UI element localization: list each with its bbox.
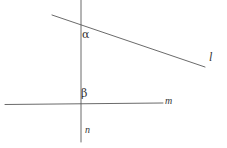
line-label-l: l xyxy=(209,51,212,63)
geometry-figure: α β m n l xyxy=(0,0,227,148)
line-label-n: n xyxy=(85,125,90,135)
figure-canvas xyxy=(0,0,227,148)
angle-label-alpha: α xyxy=(82,29,89,40)
angle-label-beta: β xyxy=(81,88,87,99)
line-label-m: m xyxy=(165,96,172,106)
figure-background xyxy=(0,0,227,148)
